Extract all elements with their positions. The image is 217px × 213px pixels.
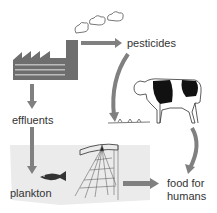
- arrow-factory-to-pesticides: [81, 38, 122, 48]
- food-for-humans-label-line1: food for: [167, 178, 204, 189]
- arrow-pesticides-to-ground: [109, 54, 128, 122]
- plankton-label: plankton: [10, 188, 52, 199]
- arrow-cow-to-food: [185, 128, 197, 174]
- food-for-humans-label-line2: humans: [167, 191, 206, 202]
- arrow-factory-to-effluents: [27, 84, 37, 109]
- smoke-cloud-icon: [75, 12, 123, 33]
- factory-icon: [13, 40, 78, 80]
- pollution-food-chain-diagram: pesticides effluents plankton food for h…: [0, 0, 217, 213]
- cow-icon: [134, 79, 201, 123]
- pesticides-label: pesticides: [127, 38, 176, 49]
- effluents-label: effluents: [12, 115, 53, 126]
